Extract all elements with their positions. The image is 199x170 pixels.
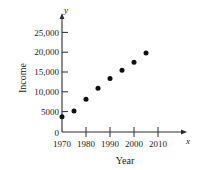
x-tick-label-1970: 1970 — [53, 139, 72, 149]
y-tick-label-15000: 15,000 — [34, 67, 59, 77]
data-point — [84, 97, 89, 102]
data-point — [96, 86, 101, 91]
y-axis-variable-label: y — [63, 5, 68, 15]
scatter-plot-figure: 25,000 20,000 15,000 10,000 5000 0 1970 … — [0, 0, 199, 170]
data-point — [132, 60, 137, 65]
x-tick-label-2010: 2010 — [149, 139, 168, 149]
y-tick-label-25000: 25,000 — [34, 28, 59, 38]
data-point — [144, 51, 149, 56]
data-point — [108, 76, 113, 81]
data-point-group — [60, 51, 149, 120]
x-axis-variable-label: x — [185, 136, 190, 146]
x-tick-label-1980: 1980 — [77, 139, 96, 149]
x-tick-label-2000: 2000 — [125, 139, 144, 149]
chart-canvas: 25,000 20,000 15,000 10,000 5000 0 1970 … — [0, 0, 199, 170]
data-point — [72, 108, 77, 113]
y-tick-label-0: 0 — [55, 128, 60, 138]
data-point — [60, 114, 65, 119]
y-axis-title: Income — [17, 62, 28, 93]
y-tick-label-5000: 5000 — [41, 107, 60, 117]
y-tick-label-10000: 10,000 — [34, 87, 59, 97]
x-axis-title: Year — [116, 155, 135, 166]
x-tick-label-1990: 1990 — [101, 139, 120, 149]
data-point — [120, 68, 125, 73]
x-axis-arrowhead — [181, 130, 187, 135]
y-tick-label-20000: 20,000 — [34, 47, 59, 57]
